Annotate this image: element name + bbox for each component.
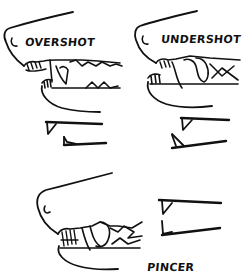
undershot-label: UNDERSHOT	[160, 33, 241, 46]
pincer-label: PINCER	[146, 261, 195, 274]
overshot-label: OVERSHOT	[24, 36, 95, 49]
pincer-bite-symbol	[159, 200, 221, 235]
overshot-bite-symbol	[46, 122, 106, 145]
overshot-muzzle-drawing	[4, 12, 122, 112]
undershot-muzzle-drawing	[135, 11, 240, 107]
bite-types-diagram: OVERSHOT UNDERSHOT PINCER	[0, 0, 250, 279]
undershot-bite-symbol	[172, 118, 229, 148]
pincer-muzzle-drawing	[37, 173, 142, 270]
